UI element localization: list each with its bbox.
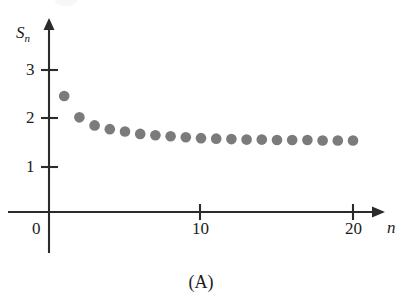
data-point <box>105 124 116 135</box>
data-point <box>59 91 70 102</box>
figure-caption: (A) <box>0 272 402 293</box>
y-tick-label-2: 2 <box>26 109 35 126</box>
data-point <box>333 135 344 146</box>
data-point <box>226 134 237 145</box>
y-axis-arrow-icon <box>44 18 55 30</box>
data-point <box>135 129 146 140</box>
data-point <box>302 135 313 146</box>
x-tick-label-0: 0 <box>32 220 41 237</box>
y-axis-title-subscript: n <box>25 32 31 44</box>
scatter-plot-canvas <box>0 0 402 306</box>
x-axis-arrow-icon <box>372 207 385 218</box>
data-point <box>196 133 207 144</box>
y-tick-label-1: 1 <box>26 158 35 175</box>
y-axis-title-symbol: S <box>16 23 25 42</box>
data-point <box>120 126 131 137</box>
data-point <box>165 131 176 142</box>
figure-panel-a: 3 2 1 0 10 20 Sn n (A) <box>0 0 402 306</box>
x-tick-label-10: 10 <box>192 220 209 237</box>
y-axis-title: Sn <box>16 24 30 44</box>
data-point <box>317 135 328 146</box>
data-point <box>181 132 192 143</box>
data-point <box>89 120 100 131</box>
y-tick-label-3: 3 <box>26 61 35 78</box>
data-point <box>257 134 268 145</box>
data-point <box>74 112 85 123</box>
x-axis-title: n <box>387 219 396 236</box>
x-tick-label-20: 20 <box>345 220 362 237</box>
data-point <box>150 130 161 141</box>
data-point <box>348 135 359 146</box>
data-point-group <box>59 91 358 146</box>
data-point <box>272 135 283 146</box>
data-point <box>241 134 252 145</box>
data-point <box>287 135 298 146</box>
data-point <box>211 133 222 144</box>
